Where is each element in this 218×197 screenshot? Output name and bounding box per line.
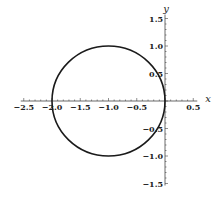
y-axis-label: y bbox=[162, 3, 169, 14]
x-tick-label: −2.5 bbox=[13, 102, 34, 112]
x-tick-label: −0.5 bbox=[126, 102, 147, 112]
x-tick-label: −1.0 bbox=[98, 102, 119, 112]
x-tick-label: −1.5 bbox=[70, 102, 91, 112]
y-tick-label: −1.0 bbox=[142, 151, 163, 161]
x-tick-label: 0.5 bbox=[186, 102, 200, 112]
y-tick-label: −1.5 bbox=[142, 179, 163, 189]
circle-plot: −2.5−2.0−1.5−1.0−0.50.51.51.00.5−0.5−1.0… bbox=[0, 0, 218, 197]
x-axis-label: x bbox=[205, 93, 211, 104]
y-tick-label: 1.0 bbox=[149, 41, 163, 51]
y-tick-label: 1.5 bbox=[149, 14, 163, 24]
tick-labels: −2.5−2.0−1.5−1.0−0.50.51.51.00.5−0.5−1.0… bbox=[13, 3, 211, 189]
